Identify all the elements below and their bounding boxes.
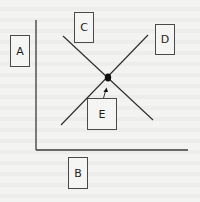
- intersection-point: [105, 74, 111, 82]
- label-a-text: A: [16, 45, 24, 58]
- label-box-c: C: [74, 12, 94, 43]
- label-d-text: D: [161, 33, 169, 46]
- label-box-d: D: [155, 24, 175, 55]
- label-b-text: B: [74, 167, 82, 180]
- label-box-e: E: [87, 98, 117, 130]
- label-box-b: B: [68, 157, 88, 189]
- label-c-text: C: [80, 21, 88, 34]
- arrow-head-icon: [104, 88, 109, 93]
- label-box-a: A: [10, 35, 30, 67]
- label-e-text: E: [99, 108, 106, 121]
- arrow-shaft: [104, 91, 106, 98]
- diagram-canvas: A B C D E: [0, 0, 200, 202]
